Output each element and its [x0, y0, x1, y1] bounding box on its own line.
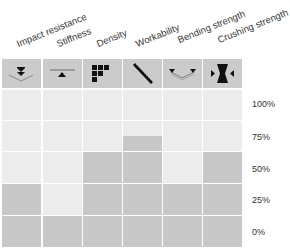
- cell-impact-resistance-100: [2, 90, 41, 120]
- header-cell-density: [83, 59, 122, 88]
- cell-stiffness-50: [43, 152, 82, 183]
- header-cell-impact-resistance: [2, 59, 41, 88]
- cell-stiffness-100: [43, 90, 82, 120]
- cell-density-50: [83, 152, 122, 183]
- cell-crushing-strength-25: [203, 184, 242, 215]
- column-label-density: Density: [95, 27, 129, 49]
- row-label-50: 50%: [252, 164, 270, 174]
- cell-stiffness-25: [43, 184, 82, 215]
- row-label-100: 100%: [252, 99, 275, 109]
- row-label-0: 0%: [252, 227, 265, 237]
- bending-strength-icon: [163, 59, 202, 88]
- cell-crushing-strength-0: [203, 216, 242, 247]
- cell-impact-resistance-75: [2, 121, 41, 151]
- cell-workability-100: [123, 90, 162, 120]
- cell-density-25: [83, 184, 122, 215]
- cell-bending-strength-100: [163, 90, 202, 120]
- cell-bending-strength-50: [163, 152, 202, 183]
- cell-impact-resistance-50: [2, 152, 41, 183]
- header-cell-bending-strength: [163, 59, 202, 88]
- workability-icon: [123, 59, 162, 88]
- row-label-25: 25%: [252, 195, 270, 205]
- cell-bending-strength-25: [163, 184, 202, 215]
- cell-density-100: [83, 90, 122, 120]
- crushing-strength-icon: [203, 59, 242, 88]
- cell-crushing-strength-100: [203, 90, 242, 120]
- cell-workability-75: [123, 121, 162, 151]
- cell-impact-resistance-0: [2, 216, 41, 247]
- cell-bending-strength-75: [163, 121, 202, 151]
- header-cell-workability: [123, 59, 162, 88]
- header-cell-stiffness: [43, 59, 82, 88]
- stiffness-icon: [43, 59, 82, 88]
- cell-bending-strength-0: [163, 216, 202, 247]
- cell-crushing-strength-50: [203, 152, 242, 183]
- cell-workability-25: [123, 184, 162, 215]
- cell-workability-0: [123, 216, 162, 247]
- cell-density-0: [83, 216, 122, 247]
- cell-stiffness-75: [43, 121, 82, 151]
- cell-density-75: [83, 121, 122, 151]
- impact-resistance-icon: [2, 59, 41, 88]
- cell-crushing-strength-75: [203, 121, 242, 151]
- cell-impact-resistance-25: [2, 184, 41, 215]
- column-label-workability: Workability: [134, 21, 181, 49]
- cell-stiffness-0: [43, 216, 82, 247]
- density-icon: [83, 59, 122, 88]
- header-cell-crushing-strength: [203, 59, 242, 88]
- row-label-75: 75%: [252, 132, 270, 142]
- cell-workability-50: [123, 152, 162, 183]
